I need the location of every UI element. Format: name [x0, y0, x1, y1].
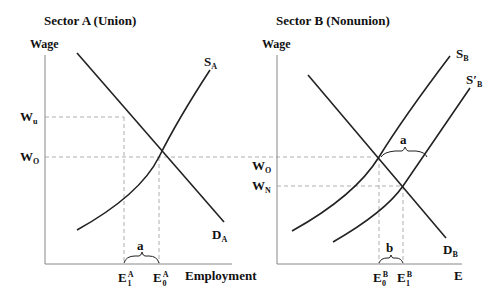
sector-a-gap-label: a — [137, 238, 144, 253]
sector-a-e1-label: EA1 — [118, 270, 134, 288]
sector-a-supply-curve — [77, 70, 210, 230]
sector-b-brace — [379, 255, 403, 263]
sector-b-title: Sector B (Nonunion) — [276, 13, 390, 28]
sector-b-panel: Sector B (Nonunion) Wage SB S′B DB WO WN… — [252, 13, 483, 288]
sector-b-shift-brace — [381, 147, 427, 157]
sector-b-supply-label: SB — [456, 46, 469, 63]
sector-b-demand-label: DB — [443, 242, 458, 259]
sector-b-x-axis-label: E — [454, 268, 463, 283]
sector-a-x-axis-label: Employment — [185, 268, 257, 283]
sector-a-supply-label: SA — [204, 54, 217, 71]
sector-a-y-axis-label: Wage — [30, 37, 59, 51]
sector-a-demand-label: DA — [212, 227, 227, 244]
sector-b-e0-label: EB0 — [373, 270, 389, 288]
sector-b-wn-label: WN — [252, 178, 271, 195]
sector-b-supply-curve — [292, 56, 450, 231]
sector-b-e1-label: EB1 — [397, 270, 413, 288]
sector-b-y-axis-label: Wage — [262, 37, 291, 51]
sector-a-demand-curve — [77, 53, 224, 222]
union-nonunion-diagram: Sector A (Union) Wage SA DA Wu WO a EA1 … — [0, 0, 499, 297]
sector-a-wo-label: WO — [20, 149, 39, 166]
sector-b-shift-label: a — [400, 132, 407, 147]
sector-a-title: Sector A (Union) — [44, 13, 136, 28]
sector-a-wu-label: Wu — [20, 109, 38, 126]
sector-b-shifted-supply-label: S′B — [466, 72, 483, 89]
sector-b-gap-label: b — [386, 240, 393, 255]
sector-a-brace — [124, 252, 159, 263]
sector-b-shifted-supply-curve — [333, 88, 470, 242]
sector-a-panel: Sector A (Union) Wage SA DA Wu WO a EA1 … — [20, 13, 372, 288]
sector-a-e0-label: EA0 — [153, 270, 169, 288]
sector-b-wo-label: WO — [252, 158, 271, 175]
